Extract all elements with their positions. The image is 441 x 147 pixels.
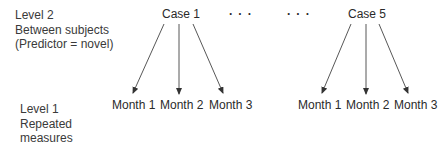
case-1-node: Case 1 — [162, 7, 200, 21]
case-1-month-3: Month 3 — [209, 98, 252, 112]
hierarchy-arrows — [0, 0, 441, 147]
ellipsis-2: · · · — [287, 7, 311, 21]
case-1-month-2: Month 2 — [160, 98, 203, 112]
case-5-month-1: Month 1 — [298, 98, 341, 112]
arrow-case5-month3 — [379, 24, 408, 93]
case-5-month-3: Month 3 — [394, 98, 437, 112]
arrow-case1-month3 — [193, 24, 223, 93]
case-5-node: Case 5 — [348, 7, 386, 21]
arrow-case5-month1 — [322, 24, 351, 93]
case-1-month-1: Month 1 — [112, 98, 155, 112]
ellipsis-1: · · · — [229, 7, 253, 21]
arrow-case1-month1 — [133, 24, 164, 93]
case-5-month-2: Month 2 — [346, 98, 389, 112]
